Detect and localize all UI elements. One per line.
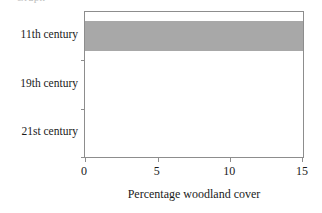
x-axis-tick: [158, 157, 159, 162]
x-axis-tick: [85, 157, 86, 162]
y-axis-category-label: 19th century: [0, 78, 78, 90]
plot-area: [85, 12, 303, 157]
y-axis-category-label: 11th century: [0, 29, 78, 41]
bar-chart: Graph 11th century19th century21st centu…: [0, 0, 322, 213]
x-axis-title: Percentage woodland cover: [84, 188, 304, 200]
x-axis-tick-label: 0: [81, 165, 87, 177]
y-axis-tick: [81, 109, 85, 110]
x-axis-tick-label: 5: [154, 165, 160, 177]
cropped-caption-remnant: Graph: [16, 0, 46, 3]
x-axis-tick-labels: 051015: [84, 165, 304, 181]
plot-frame: [84, 11, 304, 158]
y-axis-tick: [81, 60, 85, 61]
x-axis-tick: [302, 157, 303, 162]
y-axis-category-label: 21st century: [0, 126, 78, 138]
x-axis-tick-label: 15: [296, 165, 308, 177]
x-axis-tick: [230, 157, 231, 162]
x-axis-tick-label: 10: [223, 165, 235, 177]
y-axis-category-labels: 11th century19th century21st century: [0, 11, 78, 158]
bar: [85, 21, 303, 51]
